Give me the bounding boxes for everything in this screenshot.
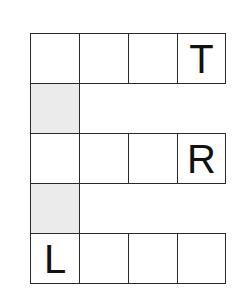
- grid-cell-r2-c0[interactable]: [30, 133, 80, 184]
- grid-cell-r0-c2[interactable]: [128, 33, 178, 84]
- grid-cell-r4-c2[interactable]: [128, 233, 178, 284]
- grid-cell-r0-c3[interactable]: T: [177, 33, 226, 84]
- grid-cell-r4-c0[interactable]: L: [30, 233, 80, 284]
- grid-cell-r2-c3[interactable]: R: [177, 133, 226, 184]
- grid-cell-r2-c1[interactable]: [79, 133, 129, 184]
- grid-cell-r0-c0[interactable]: [30, 33, 80, 84]
- grid-cell-r4-c3[interactable]: [177, 233, 226, 284]
- grid-cell-r2-c2[interactable]: [128, 133, 178, 184]
- letter-grid-puzzle: T R L: [30, 33, 226, 284]
- grid-cell-r4-c1[interactable]: [79, 233, 129, 284]
- grid-cell-r0-c1[interactable]: [79, 33, 129, 84]
- grid-cell-r1-c0-shaded: [30, 83, 80, 134]
- grid-cell-r3-c0-shaded: [30, 183, 80, 234]
